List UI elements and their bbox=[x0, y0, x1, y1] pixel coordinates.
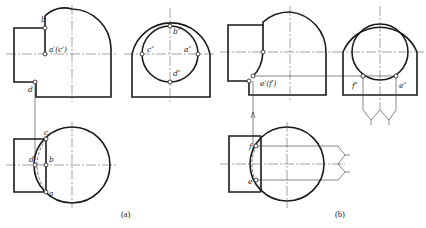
point-a-side bbox=[196, 52, 200, 56]
point-f-top bbox=[254, 144, 258, 148]
front-outline bbox=[228, 12, 326, 95]
label-d: d bbox=[28, 85, 33, 94]
label-c-side: c″ bbox=[147, 45, 154, 54]
point-c-side bbox=[140, 52, 144, 56]
point-e-side bbox=[394, 74, 398, 78]
side-outline bbox=[132, 23, 210, 97]
panel-b: e′(f′) f″ e″ bbox=[220, 6, 424, 219]
point-a-top bbox=[44, 190, 48, 194]
point-e-top bbox=[254, 178, 258, 182]
point-b-front bbox=[43, 26, 47, 30]
label-e-top: e bbox=[248, 177, 253, 186]
label-a-side: a″ bbox=[184, 45, 191, 54]
point-f-side bbox=[361, 74, 365, 78]
point-b-top bbox=[44, 163, 48, 167]
point-d-front bbox=[33, 80, 37, 84]
point-b-side bbox=[168, 24, 172, 28]
caption-a: (a) bbox=[121, 209, 131, 219]
panel-b-side-view: f″ e″ bbox=[334, 6, 424, 125]
label-a-top: a bbox=[49, 189, 53, 198]
label-f-side: f″ bbox=[351, 81, 358, 90]
panel-b-top-view: f e bbox=[220, 122, 350, 208]
label-d-top: d bbox=[29, 155, 34, 164]
label-e-f: e′(f′) bbox=[260, 79, 277, 88]
panel-a: b a′(c′) d b″ c″ a″ d″ bbox=[6, 5, 216, 219]
point-d-side bbox=[168, 80, 172, 84]
label-b-side: b″ bbox=[173, 27, 181, 36]
label-d-side: d″ bbox=[173, 69, 181, 78]
orthographic-projection-figure: b a′(c′) d b″ c″ a″ d″ bbox=[0, 0, 426, 228]
panel-a-side-view: b″ c″ a″ d″ bbox=[124, 8, 216, 102]
point-a-front bbox=[43, 52, 47, 56]
caption-b: (b) bbox=[335, 209, 345, 219]
point-ef-front bbox=[251, 74, 255, 78]
point-corner-front bbox=[247, 79, 251, 83]
miter-zigzag bbox=[363, 110, 396, 120]
label-b: b bbox=[41, 15, 46, 24]
label-e-side: e″ bbox=[399, 81, 406, 90]
miter-zigzag-top bbox=[338, 146, 345, 180]
point-c-top bbox=[44, 137, 48, 141]
panel-a-top-view: c d b a bbox=[6, 122, 118, 208]
label-a-c: a′(c′) bbox=[49, 45, 67, 54]
label-b-top: b bbox=[49, 155, 54, 164]
panel-a-front-view: b a′(c′) d bbox=[6, 5, 118, 160]
point-front-mid bbox=[261, 50, 265, 54]
